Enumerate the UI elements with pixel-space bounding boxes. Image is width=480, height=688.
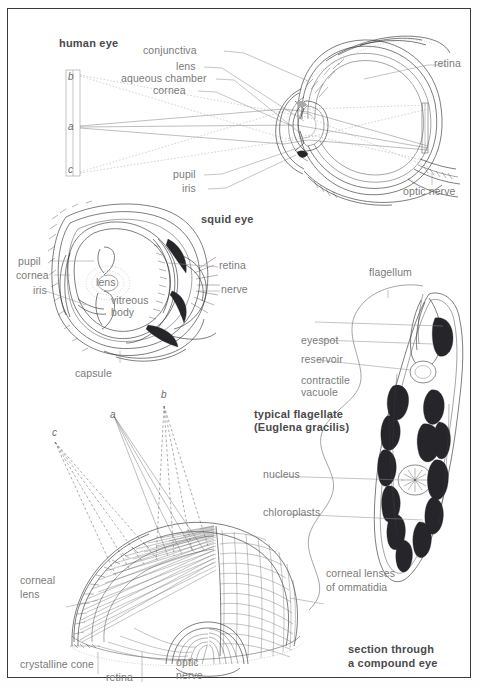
label-corneal-lenses-1: corneal lenses bbox=[326, 568, 395, 580]
compound-eye-title-1: section through bbox=[348, 643, 434, 656]
label-squid-lens: lens bbox=[96, 277, 116, 289]
label-squid-cornea: cornea bbox=[16, 270, 49, 282]
label-vitreous-body-1: vitreous bbox=[111, 295, 149, 307]
label-lens: lens bbox=[176, 61, 196, 73]
label-pupil: pupil bbox=[173, 169, 196, 181]
marker-ray-b: b bbox=[161, 389, 167, 400]
label-squid-capsule: capsule bbox=[75, 368, 112, 380]
label-iris: iris bbox=[182, 183, 196, 195]
marker-ray-c: c bbox=[52, 427, 57, 438]
label-squid-pupil: pupil bbox=[18, 256, 41, 268]
euglena-body bbox=[374, 293, 463, 582]
squid-outline bbox=[48, 201, 220, 361]
marker-object-c: c bbox=[68, 164, 73, 175]
label-eyespot: eyespot bbox=[301, 335, 338, 347]
label-vitreous-body-2: body bbox=[111, 307, 134, 319]
label-corneal-lens-2: lens bbox=[20, 589, 40, 601]
label-reservoir: reservoir bbox=[301, 354, 343, 366]
marker-object-a: a bbox=[68, 121, 74, 132]
compound-dome bbox=[70, 522, 304, 676]
marker-ray-a: a bbox=[110, 409, 116, 420]
page-frame: human eye bbox=[7, 8, 471, 678]
rays-a-bundle bbox=[114, 416, 204, 556]
label-corneal-lenses-2: of ommatidia bbox=[326, 582, 387, 594]
label-aqueous-chamber: aqueous chamber bbox=[121, 73, 207, 85]
conjunctiva-hatch bbox=[307, 59, 344, 97]
rays-c-bundle bbox=[55, 442, 158, 576]
compound-eye-drawing bbox=[8, 384, 348, 684]
label-optic-nerve: optic nerve bbox=[403, 186, 455, 198]
label-compound-optic-nerve-1: optic bbox=[176, 657, 199, 669]
label-squid-retina: retina bbox=[219, 260, 246, 272]
label-compound-retina: retina bbox=[106, 672, 133, 684]
rays-b-bundle bbox=[156, 406, 208, 560]
label-squid-nerve: nerve bbox=[221, 284, 248, 296]
label-flagellum: flagellum bbox=[369, 267, 412, 279]
label-retina: retina bbox=[434, 58, 461, 70]
label-crystalline-cone: crystalline cone bbox=[20, 659, 94, 671]
human-eye-leaders bbox=[198, 51, 446, 189]
marker-object-b: b bbox=[68, 71, 74, 82]
label-conjunctiva: conjunctiva bbox=[143, 45, 197, 57]
rays-from-a bbox=[80, 109, 428, 150]
human-eye-drawing bbox=[8, 9, 472, 209]
label-squid-iris: iris bbox=[33, 285, 47, 297]
diagram-page: human eye bbox=[0, 0, 480, 688]
label-compound-optic-nerve-2: nerve bbox=[176, 670, 203, 682]
label-cornea: cornea bbox=[153, 85, 186, 97]
compound-eye-title-2: a compound eye bbox=[348, 657, 438, 670]
facet-hex-mesh bbox=[220, 530, 295, 658]
label-corneal-lens-1: corneal bbox=[20, 575, 55, 587]
